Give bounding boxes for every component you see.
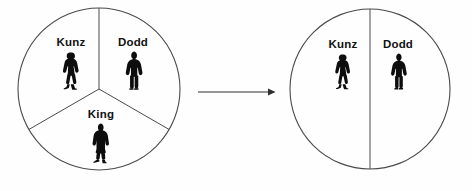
before-circle-group: Kunz Dodd King — [18, 8, 180, 170]
before-segment-dodd: Dodd — [118, 36, 148, 90]
transition-arrow — [198, 88, 276, 95]
after-label-dodd: Dodd — [383, 38, 413, 50]
after-segment-kunz: Kunz — [329, 38, 358, 89]
before-label-dodd: Dodd — [118, 36, 148, 48]
before-label-kunz: Kunz — [57, 36, 86, 48]
after-figure-kunz — [335, 55, 350, 90]
before-label-king: King — [88, 108, 114, 120]
before-figure-kunz — [63, 53, 79, 90]
before-segment-king: King — [88, 108, 114, 163]
diagram-canvas: Kunz Dodd King — [0, 0, 472, 191]
after-segment-dodd: Dodd — [383, 38, 413, 89]
after-figure-dodd — [391, 53, 407, 89]
before-segment-kunz: Kunz — [57, 36, 86, 90]
arrow-head-icon — [268, 88, 276, 95]
before-figure-dodd — [126, 51, 143, 89]
after-circle-group: Kunz Dodd — [290, 9, 450, 169]
after-label-kunz: Kunz — [329, 38, 358, 50]
before-figure-king — [93, 124, 109, 164]
diagram-root: Kunz Dodd King — [0, 0, 472, 191]
